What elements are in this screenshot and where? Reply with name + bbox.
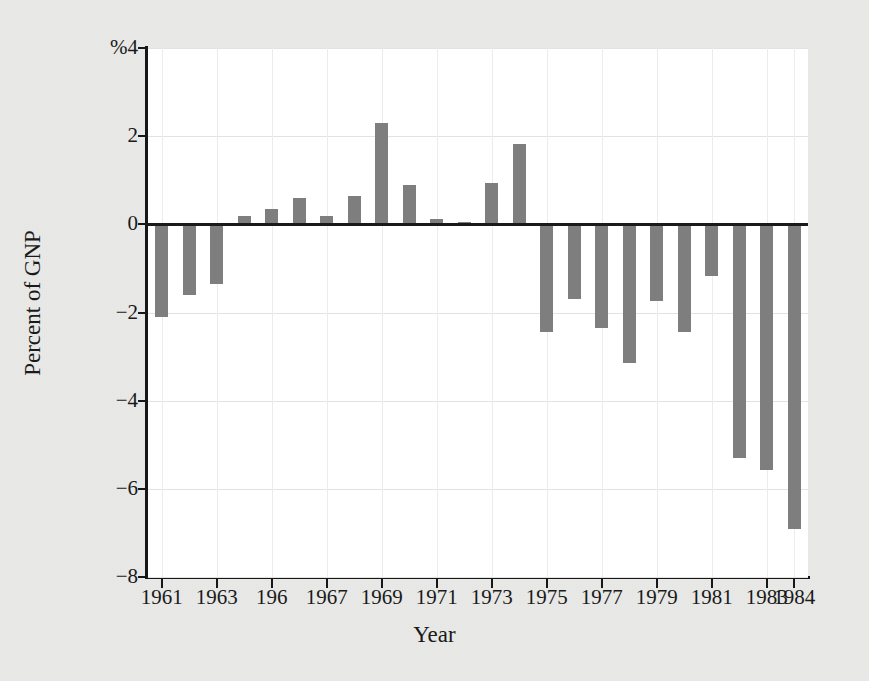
- bar: [733, 224, 746, 458]
- y-tick-label: %4: [110, 35, 138, 60]
- bar: [293, 198, 306, 224]
- bar: [183, 224, 196, 295]
- plot-area: [148, 48, 808, 577]
- y-axis-title: Percent of GNP: [20, 208, 46, 398]
- y-tick-mark: [138, 312, 148, 314]
- zero-baseline: [148, 223, 808, 226]
- gridline-horizontal: [148, 489, 808, 490]
- y-tick-label: −2: [116, 300, 138, 325]
- gridline-horizontal: [148, 577, 808, 578]
- y-tick-label: 2: [128, 123, 139, 148]
- x-tick-label: 1975: [526, 585, 568, 610]
- gridline-horizontal: [148, 313, 808, 314]
- figure-container: Percent of GNP %420−2−4−6−8 196119631961…: [0, 0, 869, 681]
- gridline-vertical: [327, 48, 328, 577]
- gridline-vertical: [217, 48, 218, 577]
- x-tick-label: 1984: [773, 585, 815, 610]
- x-tick-label: 196: [256, 585, 288, 610]
- bar: [348, 196, 361, 225]
- bar: [375, 123, 388, 224]
- gridline-vertical: [437, 48, 438, 577]
- bar: [760, 224, 773, 470]
- y-tick-mark: [138, 400, 148, 402]
- y-tick-mark: [138, 223, 148, 225]
- gridline-horizontal: [148, 401, 808, 402]
- y-tick-label: −6: [116, 476, 138, 501]
- y-tick-label: 0: [128, 211, 139, 236]
- bar: [265, 209, 278, 224]
- x-tick-label: 1963: [196, 585, 238, 610]
- bar: [568, 224, 581, 299]
- gridline-vertical: [657, 48, 658, 577]
- y-tick-label-wrap: −4: [70, 388, 138, 414]
- y-tick-mark: [138, 47, 148, 49]
- bar: [540, 224, 553, 332]
- y-tick-mark: [138, 488, 148, 490]
- x-tick-label: 1971: [416, 585, 458, 610]
- bar: [155, 224, 168, 317]
- y-tick-label-wrap: −6: [70, 476, 138, 502]
- x-tick-label: 1967: [306, 585, 348, 610]
- y-tick-mark: [138, 576, 148, 578]
- y-tick-label-wrap: −8: [70, 564, 138, 590]
- bar: [623, 224, 636, 363]
- x-tick-label: 1979: [636, 585, 678, 610]
- bar: [705, 224, 718, 276]
- y-tick-label-wrap: %4: [70, 35, 138, 61]
- x-tick-label: 1973: [471, 585, 513, 610]
- y-tick-mark: [138, 135, 148, 137]
- x-axis-title: Year: [0, 622, 869, 648]
- bar: [595, 224, 608, 328]
- x-tick-label: 1981: [691, 585, 733, 610]
- gridline-horizontal: [148, 48, 808, 49]
- y-tick-label-wrap: 0: [70, 211, 138, 237]
- gridline-horizontal: [148, 136, 808, 137]
- bar: [788, 224, 801, 528]
- bar: [403, 185, 416, 225]
- x-tick-label: 1969: [361, 585, 403, 610]
- bar: [678, 224, 691, 332]
- bar: [210, 224, 223, 284]
- y-tick-label-wrap: 2: [70, 123, 138, 149]
- gridline-vertical: [272, 48, 273, 577]
- y-tick-label-wrap: −2: [70, 300, 138, 326]
- y-tick-label: −4: [116, 388, 138, 413]
- gridline-vertical: [492, 48, 493, 577]
- y-tick-label: −8: [116, 564, 138, 589]
- bar: [513, 144, 526, 224]
- bar: [650, 224, 663, 301]
- x-tick-label: 1977: [581, 585, 623, 610]
- x-tick-label: 1961: [141, 585, 183, 610]
- bar: [485, 183, 498, 224]
- gridline-vertical: [712, 48, 713, 577]
